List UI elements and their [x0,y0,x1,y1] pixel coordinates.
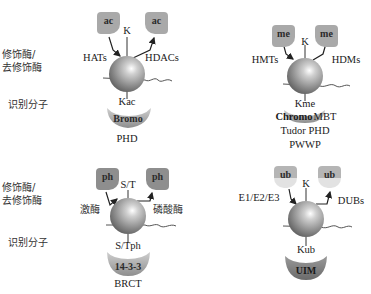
modified-residue-label: Kme [295,99,315,110]
modified-residue-label: Kub [297,245,315,256]
nucleosome-sphere-icon [287,58,323,94]
writer-label: E1/E2/E3 [239,193,280,204]
eraser-label: 磷酸酶 [153,204,183,217]
ac-tag-right: ac [145,12,168,34]
nucleosome-sphere-icon [109,56,145,92]
other-reader-label: MBT [314,112,337,123]
ac-tag-left: ac [97,12,120,34]
row-label-line: 修饰酶/ [2,49,42,62]
residue-label: S/T [120,180,135,191]
row-label-modifier-bottom: 修饰酶/ 去修饰酶 [2,182,42,207]
ub-tag-right: ub [318,166,341,188]
ph-tag-right: ph [146,168,169,190]
reader-domain-label: 14-3-3 [115,261,142,272]
residue-label: K [123,26,131,37]
row-label-reader-top: 识别分子 [8,99,48,112]
reader-domain-label: Chromo [275,112,312,123]
residue-label: K [302,179,310,190]
writer-label: HMTs [252,55,279,66]
residue-label: K [301,37,309,48]
other-reader-label: PWWP [289,140,321,151]
row-label-line: 修饰酶/ [2,182,42,195]
row-label-line: 去修饰酶 [2,62,42,75]
reader-domain-label: UIM [296,265,317,276]
reader-domain-label: Bromo [113,113,142,124]
me-tag-right: me [315,25,338,47]
modified-residue-label: Kac [119,97,136,108]
row-label-line: 去修饰酶 [2,195,42,208]
other-reader-label: BRCT [114,279,141,290]
modified-residue-label: S/Tph [115,241,141,252]
ub-tag-left: ub [274,166,297,188]
eraser-label: HDMs [332,55,361,66]
row-label-modifier-top: 修饰酶/ 去修饰酶 [2,49,42,74]
writer-label: 激酶 [80,204,100,217]
me-tag-left: me [272,25,295,47]
eraser-label: HDACs [145,53,179,64]
other-reader-label: PHD [116,134,137,145]
row-label-reader-bottom: 识别分子 [8,237,48,250]
eraser-label: DUBs [338,196,364,207]
nucleosome-sphere-icon [110,198,146,234]
nucleosome-sphere-icon [288,201,324,237]
other-reader-label: Tudor PHD [281,126,330,137]
writer-label: HATs [83,53,107,64]
ph-tag-left: ph [96,168,119,190]
